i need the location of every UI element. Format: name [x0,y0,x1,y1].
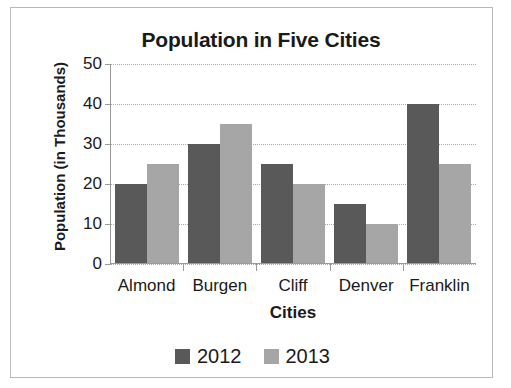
x-tick-mark [256,264,257,271]
bar-franklin-2013 [439,164,471,264]
bar-almond-2013 [147,164,179,264]
x-tick-mark [403,264,404,271]
x-tick-label-almond: Almond [118,276,176,296]
legend-label: 2013 [286,345,331,368]
bar-cliff-2012 [261,164,293,264]
x-tick-mark [183,264,184,271]
legend-label: 2012 [197,345,242,368]
y-axis-line [110,64,111,264]
gridline [110,264,476,265]
bar-cliff-2013 [293,184,325,264]
y-tick-mark [105,264,110,265]
dark-gray-swatch [175,349,190,364]
x-tick-mark [330,264,331,271]
bar-denver-2013 [366,224,398,264]
y-tick-label: 40 [83,94,102,114]
chart-title: Population in Five Cities [111,28,411,52]
y-tick-label: 30 [83,134,102,154]
x-axis-tick-labels: AlmondBurgenCliffDenverFranklin [110,276,490,300]
x-axis-line [110,263,476,264]
y-tick-label: 20 [83,174,102,194]
y-tick-label: 50 [83,54,102,74]
y-axis-title: Population (in Thousands) [51,47,68,267]
bar-burgen-2013 [220,124,252,264]
y-tick-label: 0 [93,254,102,274]
bar-almond-2012 [115,184,147,264]
x-axis-title: Cities [110,303,476,323]
chart-container: Population in Five Cities Population (in… [10,7,493,378]
x-tick-label-denver: Denver [339,276,394,296]
bar-burgen-2012 [188,144,220,264]
light-gray-swatch [264,349,279,364]
x-tick-label-burgen: Burgen [192,276,247,296]
x-tick-label-cliff: Cliff [279,276,308,296]
y-tick-label: 10 [83,214,102,234]
legend-item-2013[interactable]: 2013 [264,345,331,368]
plot-area: 01020304050 [110,64,476,264]
bar-denver-2012 [334,204,366,264]
bar-franklin-2012 [407,104,439,264]
x-tick-label-franklin: Franklin [409,276,469,296]
legend-item-2012[interactable]: 2012 [175,345,242,368]
gridline [110,64,476,65]
chart-legend: 20122013 [11,345,494,368]
